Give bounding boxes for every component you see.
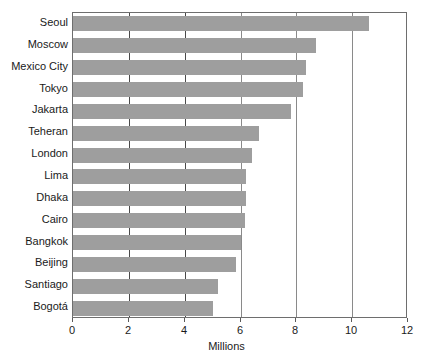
bar-row (73, 169, 408, 184)
x-tick-mark (295, 318, 296, 322)
x-axis-title: Millions (0, 340, 427, 352)
x-tick-label: 10 (345, 324, 357, 336)
bar (73, 38, 316, 53)
bar-row (73, 148, 408, 163)
category-label: Bogotá (0, 301, 68, 312)
bar-row (73, 279, 408, 294)
category-label: Moscow (0, 39, 68, 50)
bar (73, 279, 218, 294)
bar (73, 82, 303, 97)
bar-row (73, 257, 408, 272)
category-label: Dhaka (0, 192, 68, 203)
x-tick-label: 12 (401, 324, 413, 336)
x-tick-mark (351, 318, 352, 322)
bar-row (73, 235, 408, 250)
x-tick-label: 2 (125, 324, 131, 336)
bar-row (73, 38, 408, 53)
x-axis: 024681012 (72, 318, 407, 338)
x-tick-label: 4 (181, 324, 187, 336)
bar-row (73, 213, 408, 228)
x-tick-mark (240, 318, 241, 322)
plot-area (72, 12, 407, 318)
x-tick-mark (72, 318, 73, 322)
bar-row (73, 60, 408, 75)
bar-row (73, 126, 408, 141)
bar (73, 126, 259, 141)
bar-row (73, 16, 408, 31)
x-tick-label: 8 (292, 324, 298, 336)
category-axis-labels: SeoulMoscowMexico CityTokyoJakartaTehera… (0, 12, 68, 318)
bar (73, 148, 252, 163)
category-label: Tokyo (0, 83, 68, 94)
category-label: Beijing (0, 257, 68, 268)
category-label: Jakarta (0, 104, 68, 115)
bar (73, 60, 306, 75)
bar-row (73, 301, 408, 316)
bars-container (73, 13, 406, 317)
bar (73, 16, 369, 31)
category-label: Teheran (0, 126, 68, 137)
bar-row (73, 191, 408, 206)
bar-chart: SeoulMoscowMexico CityTokyoJakartaTehera… (0, 0, 427, 363)
bar (73, 301, 213, 316)
x-tick-mark (128, 318, 129, 322)
x-tick-label: 6 (237, 324, 243, 336)
bar (73, 169, 246, 184)
category-label: Bangkok (0, 236, 68, 247)
category-label: Santiago (0, 279, 68, 290)
x-tick-mark (184, 318, 185, 322)
x-tick-mark (407, 318, 408, 322)
bar (73, 104, 291, 119)
bar (73, 213, 245, 228)
category-label: London (0, 148, 68, 159)
category-label: Cairo (0, 214, 68, 225)
bar (73, 191, 246, 206)
bar-row (73, 82, 408, 97)
category-label: Mexico City (0, 61, 68, 72)
category-label: Lima (0, 170, 68, 181)
bar-row (73, 104, 408, 119)
bar (73, 257, 236, 272)
x-tick-label: 0 (69, 324, 75, 336)
category-label: Seoul (0, 17, 68, 28)
x-axis-title-text: Millions (208, 340, 245, 352)
bar (73, 235, 241, 250)
